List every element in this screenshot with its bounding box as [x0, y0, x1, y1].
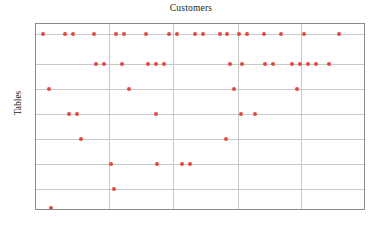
- data-point: [298, 62, 302, 66]
- data-point: [193, 32, 197, 36]
- data-point: [188, 162, 192, 166]
- data-point: [155, 162, 159, 166]
- data-point: [41, 32, 45, 36]
- data-point: [122, 32, 126, 36]
- data-point: [114, 32, 118, 36]
- data-point: [92, 32, 96, 36]
- data-point: [71, 32, 75, 36]
- data-point: [75, 112, 79, 116]
- data-point: [67, 112, 71, 116]
- data-point: [120, 62, 124, 66]
- data-point: [175, 32, 179, 36]
- data-point: [245, 32, 249, 36]
- data-point: [109, 162, 113, 166]
- data-point: [228, 62, 232, 66]
- gridline-horizontal: [36, 189, 364, 190]
- gridline-horizontal: [36, 139, 364, 140]
- data-point: [112, 187, 116, 191]
- data-point: [253, 112, 257, 116]
- data-point: [63, 32, 67, 36]
- data-point: [79, 137, 83, 141]
- data-point: [225, 32, 229, 36]
- data-point: [290, 62, 294, 66]
- plot-area: [35, 23, 365, 210]
- gridline-horizontal: [36, 34, 364, 35]
- data-point: [314, 62, 318, 66]
- data-point: [237, 32, 241, 36]
- data-point: [239, 112, 243, 116]
- data-point: [127, 87, 131, 91]
- data-point: [154, 112, 158, 116]
- data-point: [167, 32, 171, 36]
- data-point: [271, 62, 275, 66]
- gridline-vertical: [109, 24, 110, 209]
- data-point: [224, 137, 228, 141]
- y-axis-label-container: Tables: [6, 0, 28, 231]
- gridline-vertical: [173, 24, 174, 209]
- data-point: [279, 32, 283, 36]
- page-title: Customers: [0, 3, 382, 13]
- data-point: [295, 87, 299, 91]
- gridline-horizontal: [36, 164, 364, 165]
- data-point: [218, 32, 222, 36]
- data-point: [306, 62, 310, 66]
- data-point: [154, 62, 158, 66]
- data-point: [102, 62, 106, 66]
- y-axis-label: Tables: [13, 73, 23, 133]
- data-point: [327, 62, 331, 66]
- data-point: [201, 32, 205, 36]
- data-point: [49, 206, 53, 210]
- data-point: [146, 62, 150, 66]
- gridline-vertical: [238, 24, 239, 209]
- data-point: [240, 62, 244, 66]
- data-point: [302, 32, 306, 36]
- data-point: [262, 32, 266, 36]
- gridline-horizontal: [36, 89, 364, 90]
- data-point: [162, 62, 166, 66]
- data-point: [263, 62, 267, 66]
- gridline-vertical: [301, 24, 302, 209]
- data-point: [180, 162, 184, 166]
- data-point: [232, 87, 236, 91]
- data-point: [47, 87, 51, 91]
- gridline-horizontal: [36, 114, 364, 115]
- data-point: [337, 32, 341, 36]
- scatter-chart-figure: Customers Tables: [0, 0, 382, 231]
- data-point: [144, 32, 148, 36]
- data-point: [94, 62, 98, 66]
